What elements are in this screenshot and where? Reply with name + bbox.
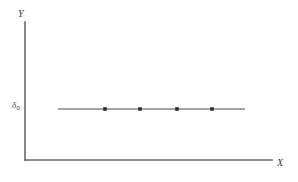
x-axis-label: X bbox=[277, 158, 283, 168]
y-tick-label-delta-zero: δ0 bbox=[12, 101, 20, 111]
plot-area bbox=[0, 0, 298, 182]
data-point-marker bbox=[138, 107, 142, 111]
data-point-marker bbox=[210, 107, 214, 111]
data-point-marker bbox=[175, 107, 179, 111]
y-tick-label-subscript: 0 bbox=[16, 104, 19, 111]
figure-canvas: Y X δ0 bbox=[0, 0, 298, 182]
data-point-marker bbox=[103, 107, 107, 111]
y-axis-label: Y bbox=[18, 9, 24, 19]
